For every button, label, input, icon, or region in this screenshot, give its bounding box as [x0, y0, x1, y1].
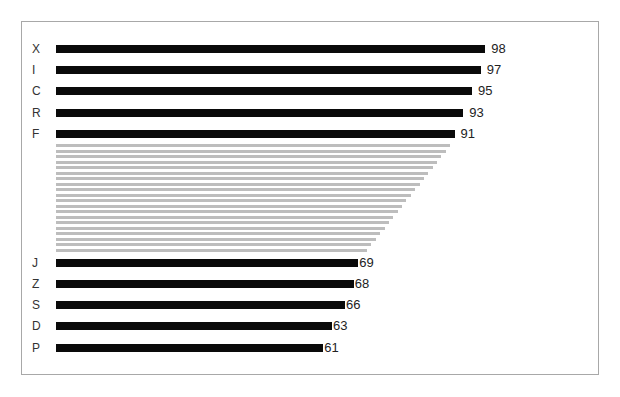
- omitted-bar: [56, 183, 420, 186]
- omitted-bar: [56, 205, 402, 208]
- category-label: R: [32, 107, 44, 119]
- omitted-bar: [56, 243, 371, 246]
- category-label: C: [32, 85, 44, 97]
- omitted-bar: [56, 221, 389, 224]
- bar: [56, 45, 485, 53]
- bar: [56, 280, 354, 288]
- omitted-bar: [56, 238, 376, 241]
- omitted-bar: [56, 177, 424, 180]
- value-label: 97: [487, 63, 501, 76]
- category-label: F: [32, 128, 44, 140]
- omitted-bar: [56, 249, 367, 252]
- value-label: 93: [469, 106, 483, 119]
- omitted-bar: [56, 199, 406, 202]
- bar: [56, 87, 472, 95]
- bar: [56, 301, 345, 309]
- category-label: D: [32, 320, 44, 332]
- omitted-bar: [56, 210, 398, 213]
- bar: [56, 109, 463, 117]
- bar: [56, 130, 455, 138]
- value-label: 98: [491, 42, 505, 55]
- value-label: 68: [355, 277, 369, 290]
- category-label: Z: [32, 278, 44, 290]
- bar: [56, 259, 358, 267]
- bar: [56, 322, 332, 330]
- value-label: 95: [478, 84, 492, 97]
- omitted-bar: [56, 227, 385, 230]
- category-label: X: [32, 43, 44, 55]
- value-label: 91: [461, 127, 475, 140]
- bar: [56, 344, 323, 352]
- omitted-bar: [56, 172, 428, 175]
- omitted-bar: [56, 188, 415, 191]
- category-label: J: [32, 257, 44, 269]
- category-label: I: [32, 64, 44, 76]
- omitted-bar: [56, 144, 450, 147]
- value-label: 61: [324, 341, 338, 354]
- omitted-bar: [56, 155, 441, 158]
- omitted-bar: [56, 194, 411, 197]
- omitted-bar: [56, 166, 433, 169]
- omitted-bar: [56, 150, 446, 153]
- bar: [56, 66, 481, 74]
- value-label: 69: [359, 256, 373, 269]
- omitted-bar: [56, 161, 437, 164]
- value-label: 66: [346, 298, 360, 311]
- omitted-bar: [56, 216, 393, 219]
- category-label: S: [32, 299, 44, 311]
- value-label: 63: [333, 319, 347, 332]
- category-label: P: [32, 342, 44, 354]
- omitted-bar: [56, 232, 380, 235]
